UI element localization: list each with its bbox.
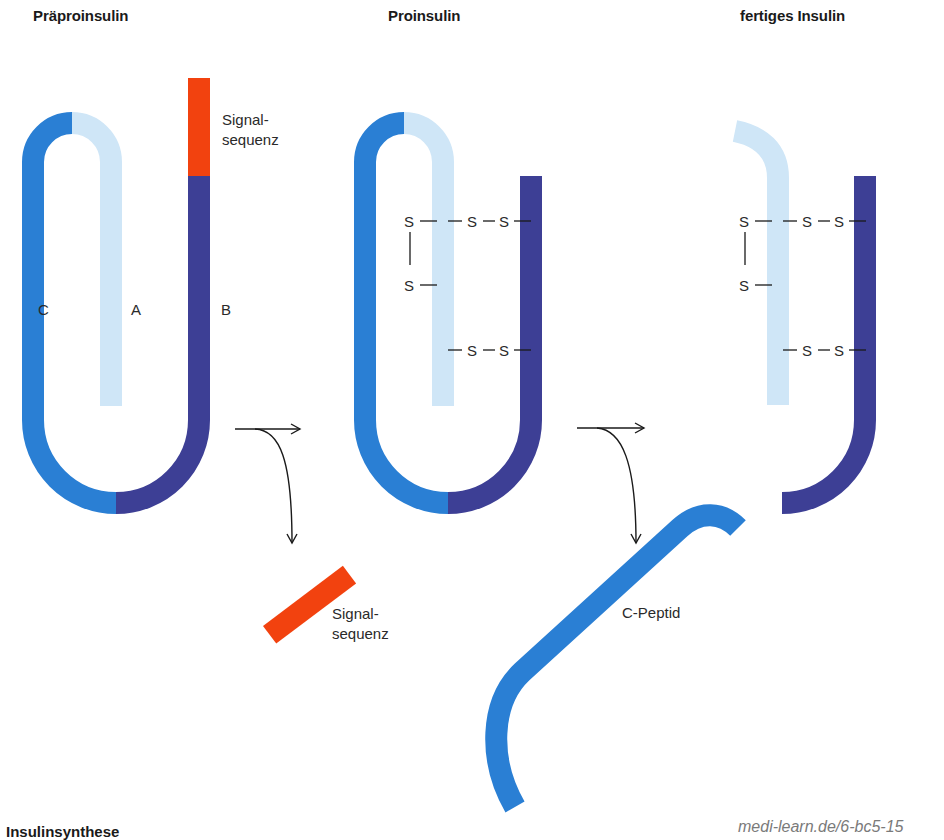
chain-b xyxy=(782,176,865,503)
signal-label-line2: sequenz xyxy=(222,130,279,150)
cleaved-signal-label-line2: sequenz xyxy=(332,624,389,644)
sulfur-atom: S xyxy=(739,213,749,230)
signal-sequence-label: Signal- sequenz xyxy=(222,110,279,150)
diagram-graphics: S S S S S S xyxy=(0,0,944,840)
disulfide-bonds-insulin xyxy=(745,221,866,350)
sulfur-atom: S xyxy=(467,213,477,230)
insulin-molecule xyxy=(735,131,865,503)
arrow-down-icon xyxy=(255,429,292,543)
figure-source: medi-learn.de/6-bc5-15 xyxy=(738,818,903,836)
chain-a xyxy=(735,131,778,405)
sulfur-atom: S xyxy=(834,213,844,230)
sulfur-atom: S xyxy=(404,213,414,230)
chain-b xyxy=(116,176,199,503)
signal-label-line1: Signal- xyxy=(222,110,279,130)
sulfur-atom: S xyxy=(802,342,812,359)
arrow-step-2 xyxy=(577,428,644,543)
sulfur-atom: S xyxy=(802,213,812,230)
chain-a xyxy=(72,123,111,406)
chain-b-label: B xyxy=(221,300,231,320)
cleaved-signal-sequence-label: Signal- sequenz xyxy=(332,604,389,644)
c-peptide xyxy=(496,515,738,807)
sulfur-labels-proinsulin: S S S S S S xyxy=(404,213,509,359)
sulfur-atom: S xyxy=(834,342,844,359)
praeproinsulin-molecule xyxy=(33,78,210,503)
sulfur-labels-insulin: S S S S S S xyxy=(739,213,844,359)
disulfide-bonds-proinsulin xyxy=(410,221,531,350)
insulin-synthesis-diagram: Präproinsulin Proinsulin fertiges Insuli… xyxy=(0,0,944,840)
arrow-down-icon xyxy=(597,428,636,543)
chain-a-label: A xyxy=(131,300,141,320)
proinsulin-molecule xyxy=(365,123,531,503)
sulfur-atom: S xyxy=(404,277,414,294)
sulfur-atom: S xyxy=(499,213,509,230)
sulfur-atom: S xyxy=(739,277,749,294)
chain-b xyxy=(448,176,531,503)
signal-sequence xyxy=(188,78,210,176)
figure-caption: Insulinsynthese xyxy=(6,823,119,840)
sulfur-atom: S xyxy=(499,342,509,359)
arrow-step-1 xyxy=(235,429,300,543)
chain-c-label: C xyxy=(38,300,49,320)
cleaved-signal-label-line1: Signal- xyxy=(332,604,389,624)
c-peptide-label: C-Peptid xyxy=(622,603,680,623)
sulfur-atom: S xyxy=(467,342,477,359)
